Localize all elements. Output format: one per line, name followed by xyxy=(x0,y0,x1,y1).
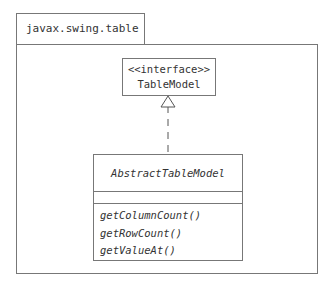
class-attributes-compartment xyxy=(94,192,242,204)
operation: getValueAt() xyxy=(100,242,242,260)
class-operations-compartment: getColumnCount() getRowCount() getValueA… xyxy=(94,204,242,260)
class-name: AbstractTableModel xyxy=(94,155,242,192)
class-box-abstracttablemodel: AbstractTableModel getColumnCount() getR… xyxy=(93,154,243,261)
operation: getColumnCount() xyxy=(100,207,242,225)
hollow-triangle-arrowhead-icon xyxy=(161,96,175,107)
operation: getRowCount() xyxy=(100,225,242,243)
